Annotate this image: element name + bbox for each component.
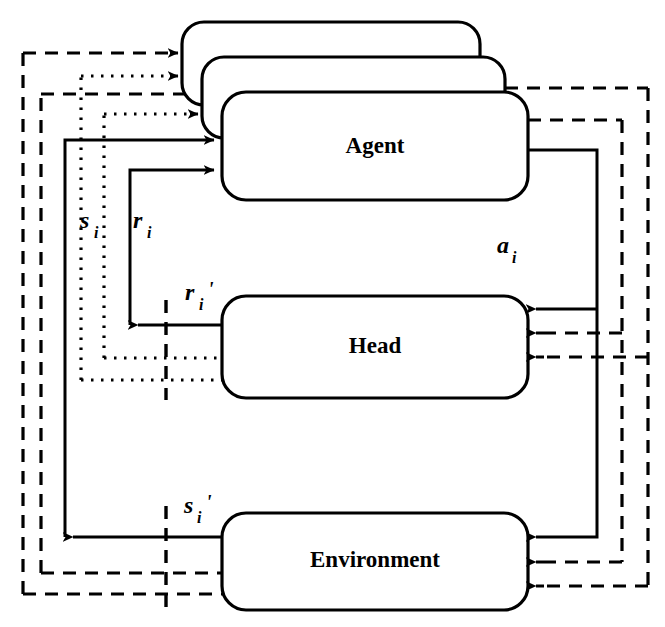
diagram-root: Agent Head Environment xyxy=(0,0,665,627)
label-s-i-prime: s i ' xyxy=(183,491,212,526)
label-r-i-base: r xyxy=(133,207,143,233)
head-box[interactable]: Head xyxy=(222,296,528,398)
label-s-i-prime-sub: i xyxy=(197,509,202,526)
edge-agent-mid-action-dashed xyxy=(528,120,622,562)
agent-label: Agent xyxy=(346,133,405,158)
label-s-i-sub: i xyxy=(94,224,99,241)
label-r-i: r i xyxy=(133,207,152,241)
label-a-i: a i xyxy=(497,232,517,266)
label-s-i-prime-mark: ' xyxy=(206,491,212,513)
edge-environment-state-to-agent xyxy=(65,140,214,537)
agent-box-front[interactable]: Agent xyxy=(222,92,528,200)
label-s-i: s i xyxy=(79,207,99,241)
environment-label: Environment xyxy=(310,547,440,572)
label-r-i-prime-mark: ' xyxy=(208,278,214,300)
edge-head-to-agent-mid-dotted xyxy=(104,114,222,358)
label-r-i-sub: i xyxy=(147,224,152,241)
diagram-canvas: Agent Head Environment xyxy=(0,0,665,627)
label-r-i-prime: r i ' xyxy=(185,278,214,313)
edge-agent-action-solid xyxy=(528,150,597,537)
edge-head-to-agent-back-dotted xyxy=(81,76,222,380)
head-label: Head xyxy=(349,333,402,358)
label-r-i-prime-base: r xyxy=(185,279,195,305)
label-r-i-prime-sub: i xyxy=(199,296,204,313)
environment-box[interactable]: Environment xyxy=(222,513,528,610)
label-a-i-base: a xyxy=(497,232,509,258)
label-s-i-base: s xyxy=(79,207,89,233)
label-a-i-sub: i xyxy=(512,249,517,266)
label-s-i-prime-base: s xyxy=(183,492,193,518)
